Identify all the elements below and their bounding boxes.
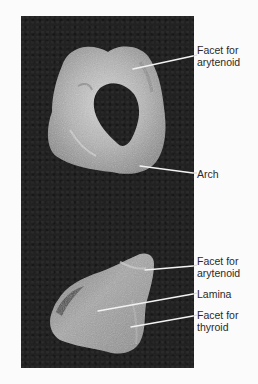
label-line: Facet for <box>197 44 240 56</box>
label-line: Facet for <box>197 309 238 321</box>
label-arch: Arch <box>197 168 219 180</box>
label-lamina: Lamina <box>197 288 231 300</box>
label-line: Arch <box>197 168 219 180</box>
leader-line-arch <box>140 166 193 173</box>
label-line: Lamina <box>197 288 231 300</box>
label-line: arytenoid <box>197 56 240 68</box>
label-facet-for-arytenoid-bottom: Facet for arytenoid <box>197 255 240 279</box>
label-facet-for-thyroid: Facet for thyroid <box>197 309 238 333</box>
label-line: arytenoid <box>197 267 240 279</box>
anatomy-figure: Facet for arytenoid Arch Facet for aryte… <box>0 0 258 384</box>
label-line: Facet for <box>197 255 240 267</box>
label-facet-for-arytenoid-top: Facet for arytenoid <box>197 44 240 68</box>
label-line: thyroid <box>197 321 238 333</box>
